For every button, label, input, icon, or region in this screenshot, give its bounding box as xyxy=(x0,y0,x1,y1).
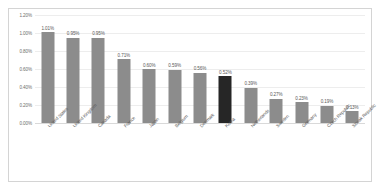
bar-group: 0.60% xyxy=(137,15,162,123)
y-axis-tick-label: 0.20% xyxy=(19,103,32,108)
chart-frame: 1.20%1.00%0.80%0.60%0.40%0.20%0.00% 1.01… xyxy=(8,8,372,182)
bar-value-label: 0.59% xyxy=(168,63,181,68)
bar-group: 0.59% xyxy=(162,15,187,123)
y-axis-tick-label: 0.40% xyxy=(19,85,32,90)
bar-group: 0.39% xyxy=(238,15,263,123)
plot-area: 1.01%0.95%0.95%0.71%0.60%0.59%0.56%0.52%… xyxy=(35,15,365,123)
y-axis-tick-label: 0.00% xyxy=(19,121,32,126)
y-axis-tick-label: 1.20% xyxy=(19,13,32,18)
bar-value-label: 0.39% xyxy=(244,81,257,86)
x-axis: United StatesUnited KingdomCanadaFranceJ… xyxy=(35,125,365,181)
y-axis: 1.20%1.00%0.80%0.60%0.40%0.20%0.00% xyxy=(9,15,35,123)
bar-value-label: 0.95% xyxy=(67,31,80,36)
bar-value-label: 0.19% xyxy=(321,99,334,104)
bar-value-label: 0.71% xyxy=(118,53,131,58)
bar xyxy=(193,73,206,123)
bar-group: 0.71% xyxy=(111,15,136,123)
bar-series: 1.01%0.95%0.95%0.71%0.60%0.59%0.56%0.52%… xyxy=(35,15,365,123)
y-axis-tick-label: 0.60% xyxy=(19,67,32,72)
bar-value-label: 0.95% xyxy=(92,31,105,36)
bar xyxy=(168,70,181,123)
bar-value-label: 0.52% xyxy=(219,70,232,75)
bar-value-label: 1.01% xyxy=(41,26,54,31)
y-axis-tick-label: 0.80% xyxy=(19,49,32,54)
bar-value-label: 0.23% xyxy=(295,96,308,101)
bar xyxy=(41,32,54,123)
bar-group: 0.27% xyxy=(263,15,288,123)
bar xyxy=(143,69,156,123)
bar-value-label: 0.60% xyxy=(143,63,156,68)
bar-value-label: 0.27% xyxy=(270,92,283,97)
bar-group: 0.19% xyxy=(314,15,339,123)
bar-group: 1.01% xyxy=(35,15,60,123)
bar-group: 0.56% xyxy=(187,15,212,123)
bar-value-label: 0.56% xyxy=(194,66,207,71)
bar xyxy=(117,59,130,123)
bar-group: 0.52% xyxy=(213,15,238,123)
y-axis-tick-label: 1.00% xyxy=(19,31,32,36)
bar-group: 0.23% xyxy=(289,15,314,123)
bar xyxy=(219,76,232,123)
